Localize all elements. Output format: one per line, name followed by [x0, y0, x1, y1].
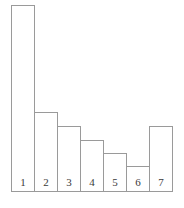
bar-label-7: 7 [150, 176, 172, 189]
bar-label-6: 6 [127, 176, 149, 189]
bar-5[interactable]: 5 [103, 153, 127, 192]
histogram-chart: 1 2 3 4 5 6 7 [0, 0, 184, 208]
bar-2[interactable]: 2 [34, 112, 58, 192]
bar-1[interactable]: 1 [11, 5, 35, 192]
bar-7[interactable]: 7 [149, 126, 173, 192]
bar-6[interactable]: 6 [126, 166, 150, 192]
bar-label-4: 4 [81, 176, 103, 189]
bar-label-5: 5 [104, 176, 126, 189]
bar-3[interactable]: 3 [57, 126, 81, 192]
bar-label-2: 2 [35, 176, 57, 189]
baseline-axis [11, 191, 173, 192]
plot-area: 1 2 3 4 5 6 7 [11, 0, 172, 192]
bar-label-1: 1 [12, 176, 34, 189]
bar-4[interactable]: 4 [80, 140, 104, 192]
bar-label-3: 3 [58, 176, 80, 189]
